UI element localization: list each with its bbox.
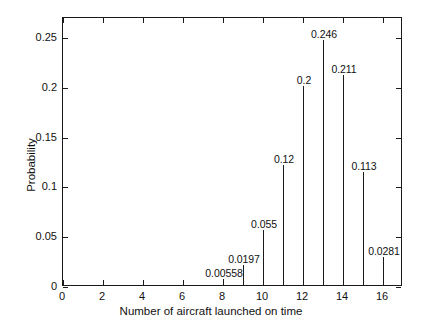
- x-tick-label: 14: [336, 290, 348, 302]
- x-tick: [343, 280, 344, 285]
- y-tick-label: 0: [51, 280, 57, 292]
- y-tick-label: 0.2: [42, 81, 57, 93]
- y-tick-label: 0.1: [42, 180, 57, 192]
- stem-value-label: 0.246: [311, 28, 337, 40]
- y-tick: [63, 237, 68, 238]
- stem-value-label: 0.12: [274, 153, 294, 165]
- stem-value-label: 0.055: [251, 218, 277, 230]
- x-tick: [303, 280, 304, 285]
- stem-value-label: 0.113: [352, 160, 377, 172]
- y-tick: [63, 38, 68, 39]
- x-tick: [383, 280, 384, 285]
- plot-area: 0.005580.01970.0550.120.20.2460.2110.113…: [62, 17, 402, 286]
- x-tick: [143, 280, 144, 285]
- x-tick-label: 6: [179, 290, 185, 302]
- x-tick-top: [383, 18, 384, 23]
- stem-value-label: 0.211: [332, 63, 357, 75]
- stem-line: [283, 165, 284, 285]
- y-tick: [63, 138, 68, 139]
- stem-value-label: 0.0281: [368, 245, 400, 257]
- y-tick: [63, 88, 68, 89]
- x-tick-top: [223, 18, 224, 23]
- x-tick-label: 0: [59, 290, 65, 302]
- y-tick-right: [396, 237, 401, 238]
- stem-series: 0.005580.01970.0550.120.20.2460.2110.113…: [63, 18, 401, 285]
- stem-value-label: 0.00558: [205, 267, 242, 279]
- x-tick-top: [263, 18, 264, 23]
- stem-value-label: 0.0197: [228, 253, 260, 265]
- stem-line: [263, 230, 264, 285]
- x-tick: [103, 280, 104, 285]
- x-tick: [63, 280, 64, 285]
- y-tick-label: 0.25: [36, 31, 57, 43]
- x-tick-top: [103, 18, 104, 23]
- x-tick-top: [183, 18, 184, 23]
- x-tick-label: 16: [376, 290, 388, 302]
- y-tick-right: [396, 138, 401, 139]
- x-tick-label: 10: [256, 290, 268, 302]
- y-axis-label: Probability: [25, 138, 37, 192]
- stem-line: [363, 172, 364, 285]
- stem-value-label: 0.2: [297, 74, 311, 86]
- x-tick-label: 12: [296, 290, 308, 302]
- y-tick-label: 0.15: [36, 131, 57, 143]
- x-tick-label: 2: [99, 290, 105, 302]
- x-tick-label: 8: [219, 290, 225, 302]
- y-tick-right: [396, 88, 401, 89]
- y-tick-label: 0.05: [36, 230, 57, 242]
- x-tick-label: 4: [139, 290, 145, 302]
- y-tick-right: [396, 38, 401, 39]
- x-tick-top: [343, 18, 344, 23]
- y-tick-right: [396, 187, 401, 188]
- x-tick-top: [63, 18, 64, 23]
- stem-line: [323, 40, 324, 285]
- x-tick-top: [303, 18, 304, 23]
- x-tick: [183, 280, 184, 285]
- stem-line: [303, 86, 304, 285]
- stem-plot-figure: 0.005580.01970.0550.120.20.2460.2110.113…: [0, 0, 422, 330]
- stem-line: [343, 75, 344, 285]
- stem-line: [243, 265, 244, 285]
- y-tick: [63, 187, 68, 188]
- x-tick: [263, 280, 264, 285]
- x-tick-top: [143, 18, 144, 23]
- x-tick: [223, 280, 224, 285]
- x-axis-label: Number of aircraft launched on time: [0, 305, 422, 317]
- y-tick: [63, 287, 68, 288]
- y-tick-right: [396, 287, 401, 288]
